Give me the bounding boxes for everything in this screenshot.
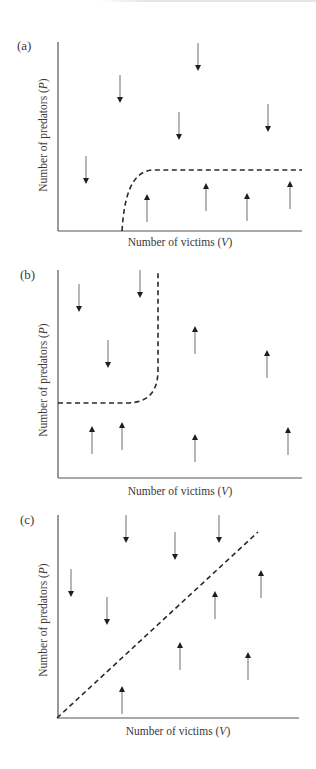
isocline-b: [58, 270, 158, 403]
arrow-down-icon: [172, 532, 178, 560]
x-axis-label-a: Number of victims (V): [128, 236, 233, 249]
arrow-down-icon: [123, 515, 129, 543]
isocline-figure: (a) Number of predators (P) Number of vi…: [0, 0, 316, 769]
y-axis-label-b: Number of predators (P): [37, 323, 50, 437]
panel-a: (a) Number of predators (P) Number of vi…: [17, 38, 302, 249]
arrow-down-icon: [216, 515, 222, 543]
arrow-up-icon: [119, 686, 125, 714]
arrow-up-icon: [203, 183, 209, 211]
arrow-up-icon: [144, 194, 150, 222]
arrow-up-icon: [285, 427, 291, 455]
arrow-down-icon: [104, 597, 110, 625]
arrow-up-icon: [264, 350, 270, 378]
arrow-down-icon: [265, 104, 271, 132]
arrow-down-icon: [176, 112, 182, 140]
panel-label-a: (a): [17, 38, 31, 53]
arrow-up-icon: [192, 326, 198, 354]
arrow-down-icon: [117, 75, 123, 103]
isocline-a: [122, 170, 302, 231]
arrow-up-icon: [177, 642, 183, 670]
x-axis-label-c: Number of victims (V): [126, 725, 231, 738]
arrow-up-icon: [192, 434, 198, 462]
arrow-up-icon: [212, 591, 218, 619]
x-axis-label-b: Number of victims (V): [128, 485, 233, 498]
panel-b: (b) Number of predators (P) Number of vi…: [20, 267, 302, 498]
arrow-down-icon: [83, 156, 89, 184]
y-axis-label-c: Number of predators (P): [37, 563, 50, 677]
isocline-c: [57, 532, 258, 718]
arrow-up-icon: [287, 181, 293, 209]
arrow-down-icon: [76, 284, 82, 312]
arrow-up-icon: [258, 570, 264, 598]
arrow-up-icon: [244, 193, 250, 221]
arrow-up-icon: [89, 426, 95, 454]
y-axis-label-a: Number of predators (P): [37, 78, 50, 192]
panel-label-c: (c): [20, 512, 34, 527]
arrow-down-icon: [105, 340, 111, 368]
arrow-up-icon: [119, 422, 125, 450]
arrow-down-icon: [68, 569, 74, 597]
arrow-down-icon: [137, 270, 143, 298]
arrow-up-icon: [245, 652, 251, 680]
panel-label-b: (b): [20, 267, 35, 282]
panel-c: (c) Number of predators (P) Number of vi…: [20, 512, 299, 738]
arrow-down-icon: [195, 43, 201, 71]
